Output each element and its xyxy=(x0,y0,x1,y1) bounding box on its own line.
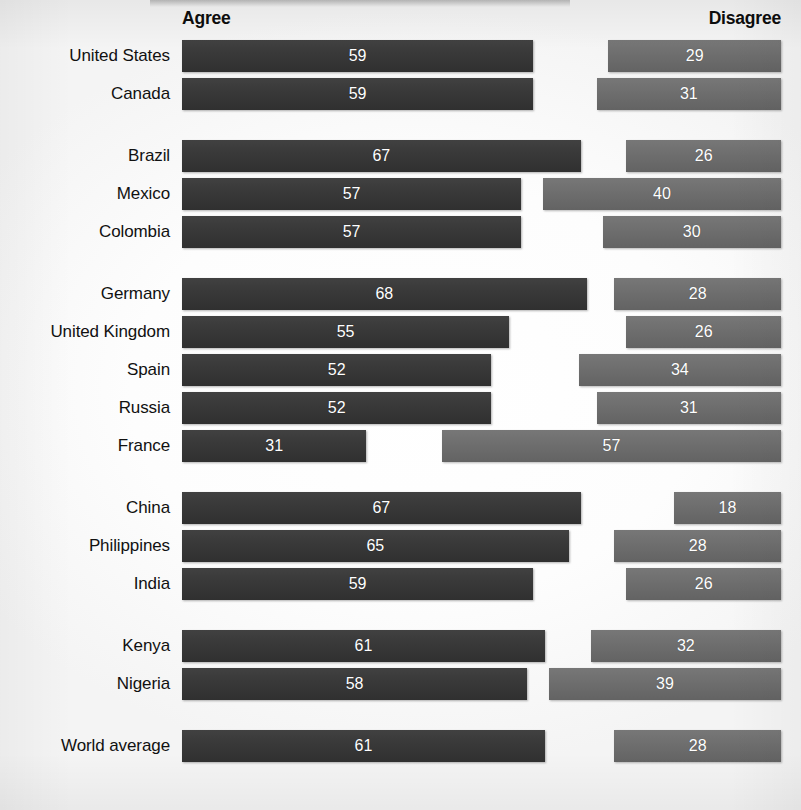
bar-agree[interactable]: 61 xyxy=(182,630,545,662)
bar-value-disagree: 40 xyxy=(543,178,781,210)
bar-agree[interactable]: 57 xyxy=(182,178,521,210)
bar-value-agree: 61 xyxy=(182,630,545,662)
bar-value-disagree: 28 xyxy=(614,730,781,762)
bar-value-agree: 52 xyxy=(182,354,491,386)
bar-disagree[interactable]: 39 xyxy=(549,668,781,700)
bar-agree[interactable]: 59 xyxy=(182,568,533,600)
bar-value-agree: 58 xyxy=(182,668,527,700)
bar-disagree[interactable]: 28 xyxy=(614,278,781,310)
row-label: Mexico xyxy=(0,178,170,210)
bar-agree[interactable]: 59 xyxy=(182,78,533,110)
bar-agree[interactable]: 67 xyxy=(182,140,581,172)
bar-disagree[interactable]: 18 xyxy=(674,492,781,524)
row-label: Germany xyxy=(0,278,170,310)
bar-agree[interactable]: 31 xyxy=(182,430,366,462)
bar-disagree[interactable]: 26 xyxy=(626,140,781,172)
row-label: Russia xyxy=(0,392,170,424)
bar-value-agree: 59 xyxy=(182,568,533,600)
bar-disagree[interactable]: 57 xyxy=(442,430,781,462)
row-label: Spain xyxy=(0,354,170,386)
row-label: United Kingdom xyxy=(0,316,170,348)
bar-value-agree: 59 xyxy=(182,40,533,72)
legend-label-disagree: Disagree xyxy=(709,8,781,29)
bar-value-disagree: 39 xyxy=(549,668,781,700)
chart-row[interactable]: Russia5231 xyxy=(0,392,801,424)
bar-value-disagree: 30 xyxy=(603,216,782,248)
chart-row[interactable]: Brazil6726 xyxy=(0,140,801,172)
bar-agree[interactable]: 65 xyxy=(182,530,569,562)
bar-disagree[interactable]: 31 xyxy=(597,78,781,110)
chart-row[interactable]: Mexico5740 xyxy=(0,178,801,210)
row-label: China xyxy=(0,492,170,524)
bar-value-agree: 61 xyxy=(182,730,545,762)
bar-disagree[interactable]: 40 xyxy=(543,178,781,210)
bar-disagree[interactable]: 30 xyxy=(603,216,782,248)
bar-disagree[interactable]: 26 xyxy=(626,316,781,348)
chart-row[interactable]: Nigeria5839 xyxy=(0,668,801,700)
bar-agree[interactable]: 68 xyxy=(182,278,587,310)
bar-group-latin-america: Brazil6726Mexico5740Colombia5730 xyxy=(0,140,801,248)
bar-value-disagree: 29 xyxy=(608,40,781,72)
bar-value-agree: 52 xyxy=(182,392,491,424)
bar-value-agree: 68 xyxy=(182,278,587,310)
bar-agree[interactable]: 55 xyxy=(182,316,509,348)
bar-value-agree: 65 xyxy=(182,530,569,562)
bar-value-disagree: 57 xyxy=(442,430,781,462)
bar-agree[interactable]: 57 xyxy=(182,216,521,248)
plot-area: United States5929Canada5931Brazil6726Mex… xyxy=(0,40,801,800)
bar-value-disagree: 31 xyxy=(597,78,781,110)
bar-agree[interactable]: 61 xyxy=(182,730,545,762)
row-label: World average xyxy=(0,730,170,762)
chart-row[interactable]: India5926 xyxy=(0,568,801,600)
chart-row[interactable]: Spain5234 xyxy=(0,354,801,386)
row-label: France xyxy=(0,430,170,462)
chart-row[interactable]: France3157 xyxy=(0,430,801,462)
row-label: India xyxy=(0,568,170,600)
chart-row[interactable]: Kenya6132 xyxy=(0,630,801,662)
bar-value-disagree: 18 xyxy=(674,492,781,524)
row-label: Philippines xyxy=(0,530,170,562)
bar-value-agree: 57 xyxy=(182,178,521,210)
chart-legend-header: Agree Disagree xyxy=(0,8,801,38)
bar-agree[interactable]: 67 xyxy=(182,492,581,524)
bar-agree[interactable]: 58 xyxy=(182,668,527,700)
bar-value-agree: 67 xyxy=(182,140,581,172)
chart-row[interactable]: China6718 xyxy=(0,492,801,524)
bar-agree[interactable]: 52 xyxy=(182,354,491,386)
row-label: Colombia xyxy=(0,216,170,248)
bar-value-disagree: 26 xyxy=(626,140,781,172)
bar-disagree[interactable]: 31 xyxy=(597,392,781,424)
bar-agree[interactable]: 59 xyxy=(182,40,533,72)
bar-agree[interactable]: 52 xyxy=(182,392,491,424)
bar-value-agree: 57 xyxy=(182,216,521,248)
bar-disagree[interactable]: 29 xyxy=(608,40,781,72)
bar-disagree[interactable]: 34 xyxy=(579,354,781,386)
bar-value-agree: 55 xyxy=(182,316,509,348)
chart-row[interactable]: Canada5931 xyxy=(0,78,801,110)
chart-row[interactable]: Philippines6528 xyxy=(0,530,801,562)
bar-group-summary: World average6128 xyxy=(0,730,801,762)
bar-value-disagree: 26 xyxy=(626,568,781,600)
chart-row[interactable]: Germany6828 xyxy=(0,278,801,310)
chart-row[interactable]: United States5929 xyxy=(0,40,801,72)
bar-value-disagree: 28 xyxy=(614,278,781,310)
chart-row[interactable]: United Kingdom5526 xyxy=(0,316,801,348)
bar-value-agree: 67 xyxy=(182,492,581,524)
bar-disagree[interactable]: 26 xyxy=(626,568,781,600)
bar-group-europe: Germany6828United Kingdom5526Spain5234Ru… xyxy=(0,278,801,462)
bar-value-agree: 59 xyxy=(182,78,533,110)
bar-value-disagree: 34 xyxy=(579,354,781,386)
bar-value-agree: 31 xyxy=(182,430,366,462)
bar-disagree[interactable]: 28 xyxy=(614,530,781,562)
bar-disagree[interactable]: 32 xyxy=(591,630,781,662)
row-label: Kenya xyxy=(0,630,170,662)
row-label: United States xyxy=(0,40,170,72)
chart-row[interactable]: Colombia5730 xyxy=(0,216,801,248)
bar-value-disagree: 32 xyxy=(591,630,781,662)
bar-disagree[interactable]: 28 xyxy=(614,730,781,762)
legend-label-agree: Agree xyxy=(182,8,231,29)
scan-edge-artifact xyxy=(150,0,570,7)
bar-group-asia: China6718Philippines6528India5926 xyxy=(0,492,801,600)
chart-row[interactable]: World average6128 xyxy=(0,730,801,762)
row-label: Canada xyxy=(0,78,170,110)
